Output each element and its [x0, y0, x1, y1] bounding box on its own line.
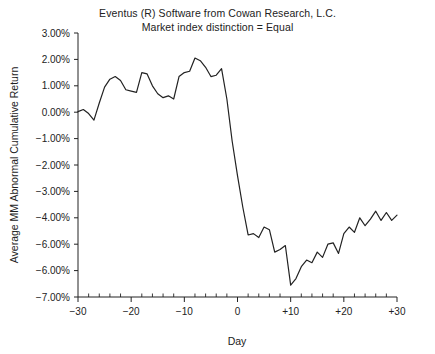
- data-series-line: [78, 58, 397, 285]
- y-axis-tick-label: −6.00%: [36, 265, 70, 276]
- x-axis-tick-label: +20: [335, 306, 352, 317]
- x-axis-title: Day: [228, 335, 247, 347]
- x-axis-tick-label: −20: [123, 306, 140, 317]
- y-axis-tick-label: −7.00%: [36, 292, 70, 303]
- x-axis-tick-label: +30: [389, 306, 406, 317]
- axes: [78, 33, 397, 297]
- x-axis-tick-label: +10: [282, 306, 299, 317]
- y-axis-tick-label: −1.00%: [36, 133, 70, 144]
- y-axis-tick-label: −4.00%: [36, 212, 70, 223]
- y-axis-tick-label: −3.00%: [36, 186, 70, 197]
- y-axis-tick-label: 0.00%: [42, 107, 70, 118]
- x-axis-tick-label: −10: [176, 306, 193, 317]
- y-axis-tick-label: 1.00%: [42, 80, 70, 91]
- y-axis-tick-label: −6.00%: [36, 239, 70, 250]
- y-axis-tick-labels: 3.00%2.00%1.00%0.00%−1.00%−2.00%−3.00%−4…: [36, 28, 70, 303]
- x-axis-ticks: [78, 297, 397, 302]
- y-axis-ticks: [74, 33, 78, 297]
- line-chart-plot: 3.00%2.00%1.00%0.00%−1.00%−2.00%−3.00%−4…: [0, 0, 435, 354]
- y-axis-title: Average MM Abnormal Cumulative Return: [8, 67, 20, 264]
- chart-figure: Eventus (R) Software from Cowan Research…: [0, 0, 435, 354]
- x-axis-tick-labels: −30−20−100+10+20+30: [70, 306, 406, 317]
- y-axis-tick-label: −2.00%: [36, 160, 70, 171]
- x-axis-tick-label: −30: [70, 306, 87, 317]
- x-axis-minor-ticks: [89, 294, 387, 298]
- x-axis-tick-label: 0: [235, 306, 241, 317]
- y-axis-tick-label: 3.00%: [42, 28, 70, 39]
- y-axis-tick-label: 2.00%: [42, 54, 70, 65]
